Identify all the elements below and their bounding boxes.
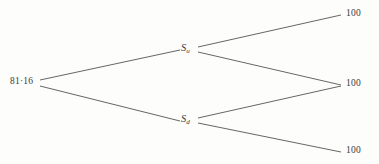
state-node-up: Su bbox=[181, 43, 190, 55]
edge-down-to-ud bbox=[198, 86, 341, 118]
edge-root-to-up bbox=[40, 50, 180, 80]
edge-up-to-uu bbox=[198, 15, 341, 47]
tree-edges-canvas bbox=[0, 0, 379, 164]
binomial-tree-diagram: 81·16 Su Sd 100 100 100 bbox=[0, 0, 379, 164]
edge-up-to-ud bbox=[198, 52, 341, 85]
state-node-down-subscript: d bbox=[186, 118, 190, 126]
edge-root-to-down bbox=[40, 86, 180, 121]
root-node-value: 81·16 bbox=[10, 77, 33, 87]
payoff-node-uu: 100 bbox=[346, 9, 361, 19]
state-node-up-subscript: u bbox=[186, 47, 190, 55]
state-node-down: Sd bbox=[181, 114, 190, 126]
payoff-node-ud: 100 bbox=[346, 79, 361, 89]
payoff-node-dd: 100 bbox=[346, 146, 361, 156]
edge-down-to-dd bbox=[198, 123, 341, 152]
